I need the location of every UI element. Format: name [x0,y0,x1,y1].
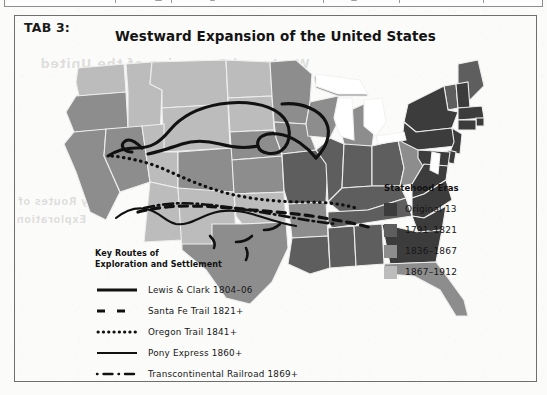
route-legend-label: Santa Fe Trail 1821+ [148,306,244,316]
state-minnesota [270,60,312,124]
routes-legend-title-line1: Key Routes of [95,249,159,258]
routes-legend-title: Key Routes of Exploration and Settlement [95,249,355,271]
solid-line-icon [95,284,139,296]
legend-label: 1867–1912 [405,267,457,277]
legend-item-1791-1821[interactable]: 1791–1821 [384,221,509,239]
tick-mark [483,0,484,3]
tick-mark [115,0,116,3]
legend-label: 1791–1821 [405,225,457,235]
dash-dot-line-icon [95,368,139,380]
route-legend-item-lewis-and-clark[interactable]: Lewis & Clark 1804–06 [95,280,355,301]
state-missouri [282,150,328,204]
route-legend-label: Oregon Trail 1841+ [148,327,237,337]
dashed-line-icon [95,305,139,317]
legend-item-1867-1912[interactable]: 1867–1912 [384,263,509,281]
state-oregon [66,92,128,132]
great-lakes-michigan [334,98,354,140]
legend-item-original-13[interactable]: Original 13 [384,200,509,218]
route-legend-label: Transcontinental Railroad 1869+ [148,369,298,379]
route-legend-item-santa-fe-trail[interactable]: Santa Fe Trail 1821+ [95,301,355,322]
state-rhode-island [476,118,484,126]
legend-label: Original 13 [405,204,457,214]
dotted-line-icon [95,326,139,338]
state-north-dakota [226,60,272,98]
legend-swatch [384,224,397,237]
statehood-legend-title: Statehood Eras [384,183,509,193]
solid-thin-line-icon [95,347,139,359]
state-indiana [342,144,372,188]
legend-swatch [384,266,397,279]
route-legend-item-pony-express[interactable]: Pony Express 1860+ [95,343,355,364]
key-routes-legend: Key Routes of Exploration and Settlement… [95,249,355,385]
figure-title: Westward Expansion of the United States [14,28,537,44]
state-montana [150,60,228,108]
state-washington [76,64,126,96]
tick-mark [171,0,172,3]
scanned-page: Westward Expansion of the United Key Rou… [0,0,547,395]
route-legend-label: Pony Express 1860+ [148,348,242,358]
tick-mark [399,0,400,3]
route-legend-label: Lewis & Clark 1804–06 [148,285,253,295]
legend-label: 1836–1867 [405,246,457,256]
routes-legend-title-line2: Exploration and Settlement [95,260,222,269]
clipped-text-stub [155,0,162,1]
legend-swatch [384,203,397,216]
previous-figure-frame-clipped [4,0,543,7]
state-new-hampshire [456,82,470,108]
legend-swatch [384,245,397,258]
state-alabama [354,224,384,266]
tick-mark [323,0,324,3]
chesapeake-bay [430,152,440,174]
clipped-text-stub [210,0,215,1]
route-legend-item-transcontinental-railroad[interactable]: Transcontinental Railroad 1869+ [95,364,355,385]
clipped-text-stub [351,0,357,1]
state-arizona [144,182,182,242]
state-kansas [232,156,284,194]
statehood-eras-legend: Statehood Eras Original 13 1791–1821 183… [384,183,509,284]
route-legend-item-oregon-trail[interactable]: Oregon Trail 1841+ [95,322,355,343]
state-connecticut [458,120,476,130]
legend-item-1836-1867[interactable]: 1836–1867 [384,242,509,260]
